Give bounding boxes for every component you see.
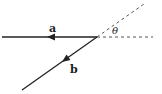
angle-theta-label: θ <box>112 26 118 36</box>
dashed-diagonal-extension <box>97 4 144 37</box>
vector-b-label: b <box>70 64 78 75</box>
vector-b-line <box>22 37 97 90</box>
vector-diagram <box>0 0 162 94</box>
vector-b-arrowhead <box>62 55 71 63</box>
vector-a-label: a <box>49 23 56 34</box>
